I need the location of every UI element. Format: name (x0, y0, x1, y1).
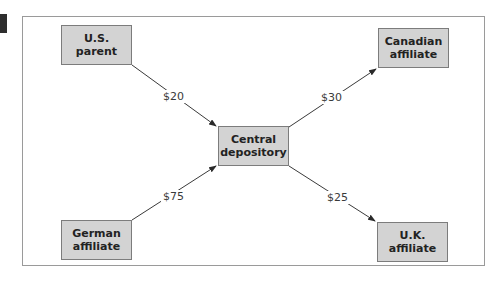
node-german-affiliate: German affiliate (61, 220, 132, 260)
node-canadian-affiliate-label: Canadian affiliate (385, 35, 443, 61)
node-canadian-affiliate: Canadian affiliate (378, 28, 449, 68)
edge-label-us-parent-to-central: $20 (161, 90, 186, 103)
node-us-parent-label: U.S. parent (76, 32, 117, 58)
node-uk-affiliate-label: U.K. affiliate (389, 229, 436, 255)
edge-label-german-to-central: $75 (161, 190, 186, 203)
node-central-depository-label: Central depository (220, 133, 287, 159)
node-german-affiliate-label: German affiliate (72, 227, 121, 253)
node-central-depository: Central depository (218, 126, 289, 166)
node-uk-affiliate: U.K. affiliate (377, 222, 448, 262)
node-us-parent: U.S. parent (61, 25, 132, 65)
edge-label-central-to-uk: $25 (325, 191, 350, 204)
edge-label-central-to-canadian: $30 (319, 91, 344, 104)
